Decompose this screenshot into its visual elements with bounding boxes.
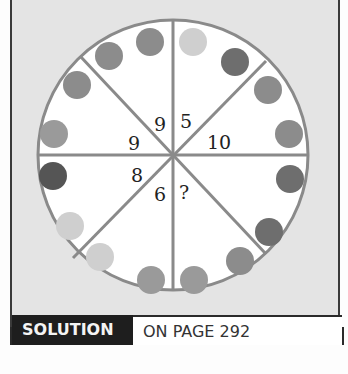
dot — [276, 165, 304, 193]
dot — [221, 48, 249, 76]
solution-label: SOLUTION — [12, 315, 133, 345]
dot — [226, 247, 254, 275]
solution-page-reference: ON PAGE 292 — [133, 315, 342, 345]
dot — [95, 42, 123, 70]
number-upper-right-inner: 5 — [180, 110, 192, 132]
dot — [137, 266, 165, 294]
dot — [39, 162, 67, 190]
dot — [86, 243, 114, 271]
number-right-upper: 10 — [207, 131, 231, 153]
dot — [255, 218, 283, 246]
dot — [40, 120, 68, 148]
dot — [179, 28, 207, 56]
number-lower-right-inner-question: ? — [179, 181, 189, 203]
dot — [136, 28, 164, 56]
dot — [180, 266, 208, 294]
number-left-lower: 8 — [131, 164, 143, 186]
number-left-upper: 9 — [128, 132, 140, 154]
solution-banner: SOLUTION ON PAGE 292 — [10, 327, 344, 345]
number-upper-left-inner: 9 — [154, 113, 166, 135]
dot — [56, 212, 84, 240]
dot — [254, 76, 282, 104]
number-lower-left-inner: 6 — [154, 183, 166, 205]
dot — [275, 120, 303, 148]
dot — [63, 71, 91, 99]
